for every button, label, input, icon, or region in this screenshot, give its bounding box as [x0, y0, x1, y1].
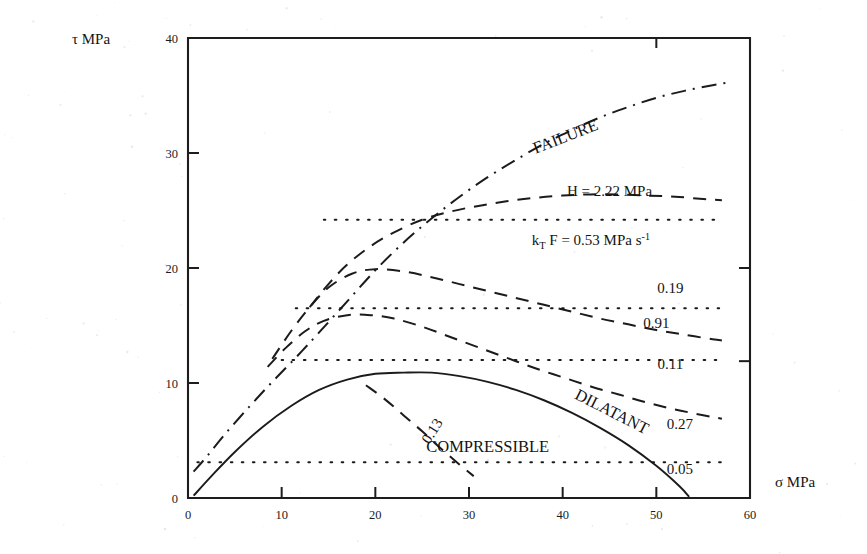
paper-speck: [159, 391, 161, 393]
paper-speck: [28, 95, 29, 96]
paper-speck: [114, 2, 115, 3]
chart-svg: 0102030400102030405060 FAILUREH = 2.22 M…: [0, 0, 867, 554]
paper-speck: [819, 8, 820, 9]
paper-speck: [853, 201, 854, 202]
paper-speck: [128, 41, 129, 42]
paper-speck: [13, 331, 15, 333]
paper-speck: [47, 318, 48, 319]
paper-speck: [131, 146, 134, 149]
paper-speck: [329, 111, 331, 113]
paper-speck: [59, 104, 61, 106]
paper-speck: [100, 484, 102, 486]
x-tick-label: 30: [463, 508, 476, 522]
paper-speck: [420, 515, 421, 516]
paper-speck: [144, 113, 146, 115]
paper-speck: [181, 176, 182, 177]
paper-speck: [30, 348, 31, 349]
paper-speck: [96, 334, 98, 336]
paper-speck: [64, 193, 66, 195]
paper-speck: [126, 351, 128, 353]
paper-speck: [129, 114, 131, 116]
paper-speck: [558, 435, 560, 437]
paper-speck: [854, 463, 856, 465]
paper-speck: [137, 357, 138, 358]
paper-speck: [98, 330, 99, 331]
paper-speck: [357, 540, 359, 542]
paper-speck: [584, 26, 585, 27]
paper-speck: [626, 18, 628, 20]
paper-speck: [110, 148, 111, 149]
paper-speck: [12, 137, 13, 138]
paper-speck: [320, 18, 322, 20]
y-axis-label: τ MPa: [72, 31, 110, 47]
x-tick-label: 0: [185, 508, 191, 522]
x-axis-label: σ MPa: [775, 474, 816, 490]
paper-speck: [783, 35, 785, 37]
paper-speck: [115, 319, 116, 320]
paper-speck: [424, 236, 426, 238]
paper-speck: [164, 528, 167, 531]
paper-speck: [63, 524, 64, 525]
x-tick-label: 20: [369, 508, 382, 522]
paper-speck: [600, 16, 602, 18]
paper-speck: [3, 218, 5, 220]
paper-speck: [369, 301, 370, 302]
paper-speck: [194, 537, 196, 539]
paper-speck: [782, 70, 784, 72]
paper-speck: [0, 302, 1, 304]
paper-speck: [335, 28, 336, 29]
paper-speck: [548, 27, 549, 28]
paper-speck: [495, 35, 497, 37]
paper-speck: [177, 456, 178, 457]
paper-speck: [96, 15, 97, 16]
paper-speck: [180, 304, 182, 306]
paper-speck: [82, 322, 84, 324]
x-tick-label: 50: [650, 508, 663, 522]
annotation-label-027: 0.27: [667, 416, 694, 432]
paper-speck: [123, 220, 125, 222]
chart-curves: [194, 83, 727, 497]
paper-speck: [4, 134, 5, 135]
annotation-h-value: H = 2.22 MPa: [567, 183, 652, 199]
paper-speck: [65, 91, 66, 92]
paper-speck: [826, 483, 828, 485]
chart-annotations: FAILUREH = 2.22 MPakT F = 0.53 MPa s-10.…: [418, 115, 693, 477]
paper-speck: [390, 443, 392, 445]
paper-speck: [604, 446, 606, 448]
annotation-failure: FAILURE: [530, 115, 601, 157]
annot-part: F = 0.53 MPa s: [546, 232, 642, 248]
annotation-label-019: 0.19: [657, 280, 683, 296]
paper-speck: [838, 390, 840, 392]
paper-speck: [26, 462, 27, 463]
paper-speck: [179, 163, 181, 165]
paper-speck: [573, 251, 575, 253]
paper-speck: [626, 523, 628, 525]
x-tick-label: 60: [744, 508, 757, 522]
paper-speck: [487, 459, 489, 461]
y-tick-label: 10: [166, 377, 179, 391]
paper-speck: [772, 333, 773, 334]
paper-speck: [116, 483, 118, 485]
paper-speck: [661, 528, 663, 530]
paper-speck: [3, 456, 4, 457]
paper-speck: [141, 95, 143, 97]
annotation-compressible: COMPRESSIBLE: [426, 437, 549, 456]
y-tick-label: 40: [166, 32, 179, 46]
paper-speck: [32, 20, 34, 22]
paper-speck: [840, 515, 841, 516]
paper-speck: [278, 23, 279, 24]
axis-labels: τ MPaσ MPa: [72, 31, 816, 490]
annotation-label-011: 0.11: [658, 356, 684, 372]
paper-speck: [123, 46, 125, 48]
y-tick-label: 20: [166, 262, 179, 276]
y-tick-label: 30: [166, 147, 179, 161]
annotation-label-005: 0.05: [667, 461, 693, 477]
paper-speck: [700, 118, 702, 120]
paper-speck: [122, 245, 123, 246]
paper-speck: [793, 361, 796, 364]
paper-speck: [263, 132, 265, 134]
paper-speck: [189, 24, 191, 26]
x-tick-label: 40: [556, 508, 569, 522]
figure-container: 0102030400102030405060 FAILUREH = 2.22 M…: [0, 0, 867, 554]
annot-part: -1: [642, 231, 650, 242]
